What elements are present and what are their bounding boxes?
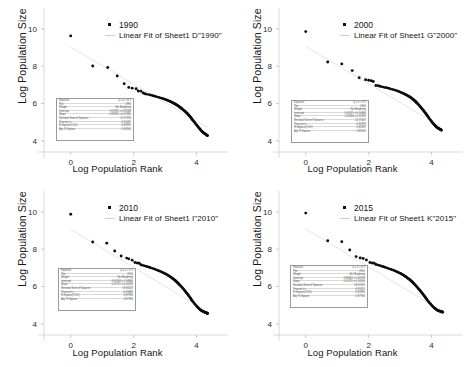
svg-text:10: 10 [28,25,37,34]
y-axis-label: Log Population Size [251,0,263,126]
fit-statistics-table-2015: Equationy = a + b*xPlot2015WeightNo Weig… [290,265,368,308]
legend-entry-fit: Linear Fit of Sheet1 G"2000" [343,30,467,41]
svg-text:6: 6 [268,282,273,291]
svg-text:8: 8 [33,62,38,71]
legend-2000: 2000Linear Fit of Sheet1 G"2000" [343,19,467,41]
svg-text:8: 8 [33,245,38,254]
legend-entry-series: 2000 [343,19,467,30]
legend-entry-series: 2015 [343,202,467,213]
legend-2010: 2010Linear Fit of Sheet1 I"2010" [108,202,232,224]
svg-text:6: 6 [33,99,38,108]
svg-text:4: 4 [33,320,38,329]
y-axis-label: Log Population Size [16,0,28,126]
svg-text:10: 10 [263,25,272,34]
svg-text:8: 8 [268,245,273,254]
svg-text:6: 6 [33,282,38,291]
legend-fit-label: Linear Fit of Sheet1 G"2000" [354,31,457,40]
stats-value: 0.85251 [357,131,366,134]
stats-row: Adj. R-Square0.83500 [59,129,131,132]
plot-panel-2010: 02446810Log Population SizeLog Populatio… [0,183,235,367]
legend-entry-series: 1990 [108,19,232,30]
legend-series-label: 2000 [354,20,373,30]
stats-value: 0.87760 [356,296,365,299]
stats-key: Adj. R-Square [293,296,309,299]
legend-entry-fit: Linear Fit of Sheet1 D"1990" [108,30,232,41]
stats-row: Adj. R-Square0.87760 [293,296,365,299]
svg-text:8: 8 [268,62,273,71]
y-axis-label: Log Population Size [16,169,28,309]
square-marker-icon [343,206,346,209]
legend-fit-label: Linear Fit of Sheet1 D"1990" [119,31,222,40]
fit-statistics-table-2010: Equationy = a + b*xPlot2010WeightNo Weig… [58,268,136,311]
square-marker-icon [108,206,111,209]
svg-text:4: 4 [33,137,38,146]
legend-entry-fit: Linear Fit of Sheet1 K"2015" [343,213,467,224]
legend-2015: 2015Linear Fit of Sheet1 K"2015" [343,202,467,224]
legend-fit-label: Linear Fit of Sheet1 K"2015" [354,214,456,223]
fit-statistics-table-2000: Equationy = a + b*xPlot2000WeightNo Weig… [291,100,369,143]
legend-series-label: 2010 [119,203,138,213]
legend-series-label: 2015 [354,203,373,213]
x-axis-label: Log Population Rank [235,163,470,174]
stats-row: Adj. R-Square0.87330 [61,299,133,302]
legend-fit-label: Linear Fit of Sheet1 I"2010" [119,214,218,223]
plot-panel-2000: 02446810Log Population SizeLog Populatio… [235,0,470,183]
figure-grid: 02446810Log Population SizeLog Populatio… [0,0,470,367]
legend-series-label: 1990 [119,20,138,30]
fit-line-icon [108,34,111,37]
stats-value: 0.83500 [122,129,131,132]
legend-entry-fit: Linear Fit of Sheet1 I"2010" [108,213,232,224]
svg-text:4: 4 [268,137,273,146]
svg-text:6: 6 [268,99,273,108]
x-axis-label: Log Population Rank [235,347,470,358]
stats-value: 0.87330 [124,299,133,302]
legend-1990: 1990Linear Fit of Sheet1 D"1990" [108,19,232,41]
x-axis-label: Log Population Rank [0,163,235,174]
stats-key: Adj. R-Square [59,129,75,132]
plot-panel-1990: 02446810Log Population SizeLog Populatio… [0,0,235,183]
fit-line-icon [108,217,111,220]
stats-row: Adj. R-Square0.85251 [294,131,366,134]
square-marker-icon [108,23,111,26]
plot-panel-2015: 02446810Log Population SizeLog Populatio… [235,183,470,367]
svg-text:10: 10 [263,208,272,217]
fit-statistics-table-1990: Equationy = a + b*xPlot1990WeightNo Weig… [56,98,134,141]
svg-text:4: 4 [268,320,273,329]
fit-line-icon [343,34,346,37]
fit-line-icon [343,217,346,220]
legend-entry-series: 2010 [108,202,232,213]
stats-key: Adj. R-Square [294,131,310,134]
svg-text:10: 10 [28,208,37,217]
y-axis-label: Log Population Size [251,169,263,309]
square-marker-icon [343,23,346,26]
x-axis-label: Log Population Rank [0,347,235,358]
stats-key: Adj. R-Square [61,299,77,302]
